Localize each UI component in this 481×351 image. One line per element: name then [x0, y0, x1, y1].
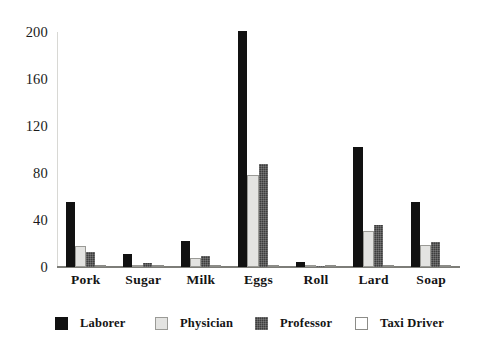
legend-label: Professor: [280, 316, 332, 331]
bar-soap-taxi-driver: [440, 265, 451, 267]
bar-pork-laborer: [66, 202, 75, 267]
legend-label: Laborer: [80, 316, 126, 331]
bar-group-lard: [353, 32, 393, 267]
bar-chart: 04080120160200 PorkSugarMilkEggsRollLard…: [0, 0, 481, 351]
bar-pork-taxi-driver: [95, 265, 106, 267]
x-axis-label-lard: Lard: [345, 272, 403, 288]
x-axis-label-soap: Soap: [402, 272, 460, 288]
bar-group-soap: [411, 32, 451, 267]
bar-sugar-laborer: [123, 254, 132, 267]
x-axis-label-roll: Roll: [287, 272, 345, 288]
plot-area: 04080120160200: [57, 32, 460, 267]
x-axis-label-pork: Pork: [57, 272, 115, 288]
y-axis-tick-label: 0: [41, 259, 57, 276]
bar-lard-professor: [374, 225, 383, 267]
bar-lard-physician: [363, 231, 374, 267]
legend-entry-professor[interactable]: Professor: [255, 316, 355, 331]
bar-roll-laborer: [296, 262, 305, 267]
bar-eggs-professor: [259, 164, 268, 267]
y-axis-tick-label: 200: [26, 24, 57, 41]
legend-label: Taxi Driver: [380, 316, 444, 331]
chart-legend: LaborerPhysicianProfessorTaxi Driver: [55, 316, 455, 331]
legend-entry-taxi-driver[interactable]: Taxi Driver: [355, 316, 455, 331]
bar-eggs-physician: [247, 175, 258, 267]
legend-swatch-taxi-driver-icon: [355, 317, 368, 330]
bar-roll-physician: [305, 265, 316, 267]
bar-soap-professor: [431, 242, 440, 267]
bar-eggs-taxi-driver: [268, 265, 279, 267]
bar-group-eggs: [238, 32, 278, 267]
bar-sugar-physician: [132, 265, 143, 267]
y-axis-tick-label: 80: [33, 165, 57, 182]
bar-group-roll: [296, 32, 336, 267]
bar-pork-professor: [86, 252, 95, 267]
bar-roll-professor: [316, 266, 325, 267]
legend-swatch-physician-icon: [155, 317, 168, 330]
y-axis-tick-label: 160: [26, 71, 57, 88]
bar-milk-taxi-driver: [210, 265, 221, 267]
x-axis-label-sugar: Sugar: [115, 272, 173, 288]
bar-eggs-laborer: [238, 31, 247, 267]
bar-soap-laborer: [411, 202, 420, 267]
bar-milk-laborer: [181, 241, 190, 267]
bar-lard-laborer: [353, 147, 362, 267]
legend-entry-physician[interactable]: Physician: [155, 316, 255, 331]
legend-entry-laborer[interactable]: Laborer: [55, 316, 155, 331]
bar-milk-professor: [201, 256, 210, 267]
bar-sugar-taxi-driver: [152, 265, 163, 267]
bar-soap-physician: [420, 245, 431, 267]
x-axis-label-milk: Milk: [172, 272, 230, 288]
bar-roll-taxi-driver: [325, 265, 336, 267]
bar-sugar-professor: [143, 263, 152, 267]
bar-group-sugar: [123, 32, 163, 267]
bar-pork-physician: [75, 246, 86, 267]
x-axis-label-eggs: Eggs: [230, 272, 288, 288]
legend-label: Physician: [180, 316, 233, 331]
legend-swatch-laborer-icon: [55, 317, 68, 330]
y-axis-tick-label: 40: [33, 212, 57, 229]
legend-swatch-professor-icon: [255, 317, 268, 330]
bar-lard-taxi-driver: [383, 265, 394, 267]
y-axis-tick-label: 120: [26, 118, 57, 135]
bar-group-milk: [181, 32, 221, 267]
bar-group-pork: [66, 32, 106, 267]
bar-milk-physician: [190, 258, 201, 267]
